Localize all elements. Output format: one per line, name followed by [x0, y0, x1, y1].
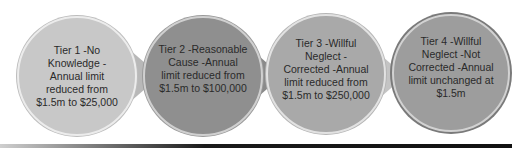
tier-3-line: limit reduced from: [277, 76, 374, 89]
tier-3-line: Corrected -Annual: [277, 63, 374, 76]
tier-4-line: Tier 4 -Willful: [403, 35, 499, 48]
tier-2-text: Tier 2 -Reasonable Cause -Annual limit r…: [154, 43, 251, 95]
tier-1-line: Annual limit: [32, 70, 122, 83]
tier-4-bubble: Tier 4 -Willful Neglect -Not Corrected -…: [392, 14, 510, 132]
tier-1-bubble: Tier 1 -No Knowledge - Annual limit redu…: [17, 16, 137, 136]
bottom-divider: [0, 144, 512, 148]
tier-3-line: $1.5m to $250,000: [277, 89, 374, 102]
tier-1-text: Tier 1 -No Knowledge - Annual limit redu…: [32, 44, 122, 109]
tier-2-bubble: Tier 2 -Reasonable Cause -Annual limit r…: [143, 16, 263, 136]
tier-1-line: $1.5m to $25,000: [32, 96, 122, 109]
tier-2-line: Cause -Annual: [154, 56, 251, 69]
tier-1-line: Tier 1 -No: [32, 44, 122, 57]
tier-3-text: Tier 3 -Willful Neglect - Corrected -Ann…: [277, 37, 374, 102]
tier-1-line: reduced from: [32, 83, 122, 96]
tier-3-line: Neglect -: [277, 50, 374, 63]
tier-1-line: Knowledge -: [32, 57, 122, 70]
tier-4-line: limit unchanged at: [403, 74, 499, 87]
tier-4-line: Corrected -Annual: [403, 61, 499, 74]
tier-4-line: Neglect -Not: [403, 48, 499, 61]
tier-3-line: Tier 3 -Willful: [277, 37, 374, 50]
tier-2-line: $1.5m to $100,000: [154, 82, 251, 95]
tier-4-line: $1.5m: [403, 87, 499, 100]
tier-3-bubble: Tier 3 -Willful Neglect - Corrected -Ann…: [266, 14, 386, 134]
tier-diagram: Tier 1 -No Knowledge - Annual limit redu…: [0, 0, 524, 149]
tier-2-line: limit reduced from: [154, 69, 251, 82]
tier-2-line: Tier 2 -Reasonable: [154, 43, 251, 56]
tier-4-text: Tier 4 -Willful Neglect -Not Corrected -…: [403, 35, 499, 100]
